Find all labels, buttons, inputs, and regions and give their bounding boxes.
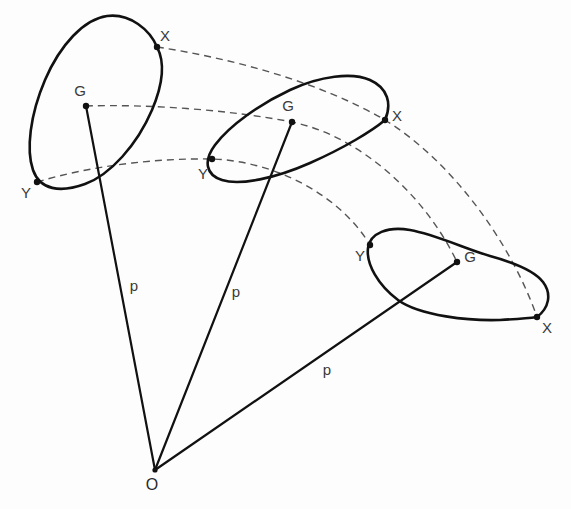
body-group bbox=[30, 16, 549, 320]
point-dot-x-3 bbox=[534, 314, 540, 320]
label-layer: pppXGYXGYYGXO bbox=[21, 27, 552, 493]
point-dot-y-2 bbox=[209, 156, 215, 162]
point-dot-x-2 bbox=[382, 117, 388, 123]
rigid-body-rotation-diagram: pppXGYXGYYGXO bbox=[0, 0, 571, 509]
radius-line-1 bbox=[86, 106, 155, 470]
point-label-x-3: X bbox=[542, 319, 552, 336]
point-label-y-1: Y bbox=[21, 184, 31, 201]
point-label-x-2: X bbox=[392, 107, 402, 124]
point-label-g-1: G bbox=[74, 82, 86, 99]
trajectory-arc-x bbox=[157, 47, 537, 317]
radius-group bbox=[86, 106, 457, 470]
point-label-g-2: G bbox=[282, 97, 294, 114]
body-outline-3 bbox=[368, 229, 548, 320]
point-dot-g-1 bbox=[83, 103, 89, 109]
point-label-y-3: Y bbox=[355, 247, 365, 264]
point-dot-x-1 bbox=[154, 44, 160, 50]
point-label-y-2: Y bbox=[198, 165, 208, 182]
diagram-canvas: pppXGYXGYYGXO bbox=[0, 0, 571, 509]
point-dot-y-3 bbox=[367, 242, 373, 248]
radius-label-p-2: p bbox=[232, 283, 240, 300]
radius-line-3 bbox=[155, 262, 457, 470]
point-dot-y-1 bbox=[34, 179, 40, 185]
radius-line-2 bbox=[155, 122, 292, 470]
radius-label-p-3: p bbox=[323, 361, 331, 378]
point-dot-g-2 bbox=[289, 119, 295, 125]
radius-label-p-1: p bbox=[130, 277, 138, 294]
body-outline-2 bbox=[208, 76, 389, 182]
point-dot-g-3 bbox=[454, 259, 460, 265]
point-label-x-1: X bbox=[160, 27, 170, 44]
point-label-g-3: G bbox=[464, 248, 476, 265]
origin-label: O bbox=[146, 476, 158, 493]
origin-dot bbox=[152, 467, 157, 472]
trajectory-group bbox=[37, 47, 537, 317]
